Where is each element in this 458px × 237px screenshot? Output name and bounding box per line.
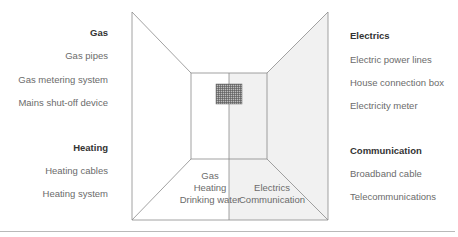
floor-zone-right: Electrics Communication [232,182,312,206]
floor-zone-right-communication: Communication [232,194,312,206]
floor-zone-left-gas: Gas [172,170,248,182]
bottom-divider [0,231,455,232]
floor-zone-right-electrics: Electrics [232,182,312,194]
meter-grid-icon [216,84,242,104]
